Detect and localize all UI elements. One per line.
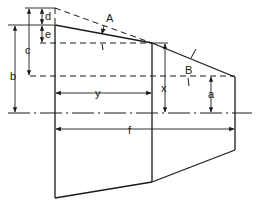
dashed-extension-top: [55, 8, 152, 43]
dim-b-label: b: [10, 70, 16, 82]
dim-c-label: c: [25, 44, 31, 56]
dim-d-label: d: [45, 10, 51, 22]
bottom-edge-2: [152, 150, 235, 182]
top-edge-2: [152, 43, 235, 77]
dim-x-label: x: [161, 82, 167, 94]
angle-markers: [102, 26, 196, 86]
diagram-canvas: A B b c d e y f x a: [0, 0, 259, 205]
construction-lines: [30, 8, 235, 76]
bottom-edge-1: [55, 182, 152, 198]
angle-a-label: A: [106, 12, 114, 24]
outline: [55, 25, 235, 198]
extension-lines: [8, 8, 168, 43]
angle-a-tick: [102, 44, 103, 50]
angle-b-tick: [188, 78, 189, 86]
angle-b-pointer: [191, 49, 196, 58]
dim-f-label: f: [128, 124, 132, 136]
dim-y-label: y: [95, 87, 101, 99]
dimension-lines: [15, 9, 234, 129]
angle-b-label: B: [185, 64, 192, 76]
dim-a-label: a: [208, 88, 215, 100]
angle-a-pointer: [102, 26, 104, 34]
dim-e-label: e: [45, 28, 51, 40]
